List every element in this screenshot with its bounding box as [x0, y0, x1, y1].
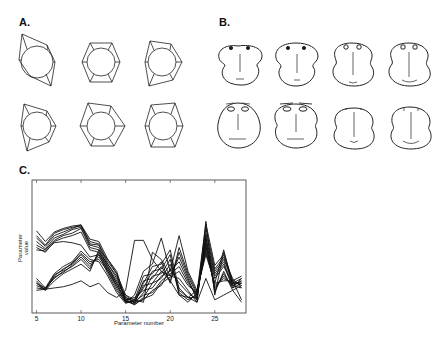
chernoff-face: [333, 43, 374, 86]
panel-b-label: B.: [219, 16, 230, 28]
polygon-glyph: [82, 43, 120, 82]
chernoff-face: [218, 103, 261, 148]
panel-a-polygons: [0, 0, 445, 344]
chernoff-face: [219, 45, 262, 85]
x-tick-label: 10: [77, 315, 85, 322]
series-line: [36, 228, 241, 303]
plot-frame: [32, 180, 246, 313]
polygon-glyph: [145, 103, 183, 147]
polygon-glyph: [21, 104, 56, 151]
chernoff-face: [391, 107, 431, 149]
polygon-glyph: [19, 34, 55, 86]
series-line: [36, 226, 241, 302]
x-tick-label: 25: [211, 315, 219, 322]
series-line: [36, 236, 241, 303]
series-line: [36, 224, 241, 305]
chernoff-face: [334, 108, 374, 149]
chernoff-face: [275, 103, 317, 148]
series-line: [36, 250, 241, 304]
y-axis-label-line2: value: [23, 240, 29, 255]
chernoff-face: [276, 43, 318, 86]
chernoff-face: [389, 43, 430, 86]
y-axis-label-line1: Parameter: [17, 234, 23, 262]
x-axis-label: Parameter number: [114, 320, 164, 326]
series-line: [36, 227, 241, 302]
x-tick-label: 20: [167, 315, 175, 322]
series-line: [36, 240, 241, 304]
series-line: [36, 221, 241, 302]
series-lines: [36, 221, 241, 304]
parameter-chart: 510152025 Parameter number Parameter val…: [0, 0, 445, 344]
series-line: [36, 225, 241, 300]
series-line: [36, 236, 241, 303]
polygon-glyph: [145, 41, 182, 86]
panel-a-label: A.: [19, 16, 30, 28]
series-line: [36, 240, 241, 302]
x-tick-label: 5: [35, 315, 39, 322]
panel-c-label: C.: [19, 164, 30, 176]
series-line: [36, 250, 241, 302]
polygon-glyph: [80, 103, 125, 146]
x-tick-label: 15: [122, 315, 130, 322]
series-line: [36, 232, 241, 300]
x-axis-ticks: 510152025: [35, 180, 219, 322]
series-line: [36, 245, 241, 303]
